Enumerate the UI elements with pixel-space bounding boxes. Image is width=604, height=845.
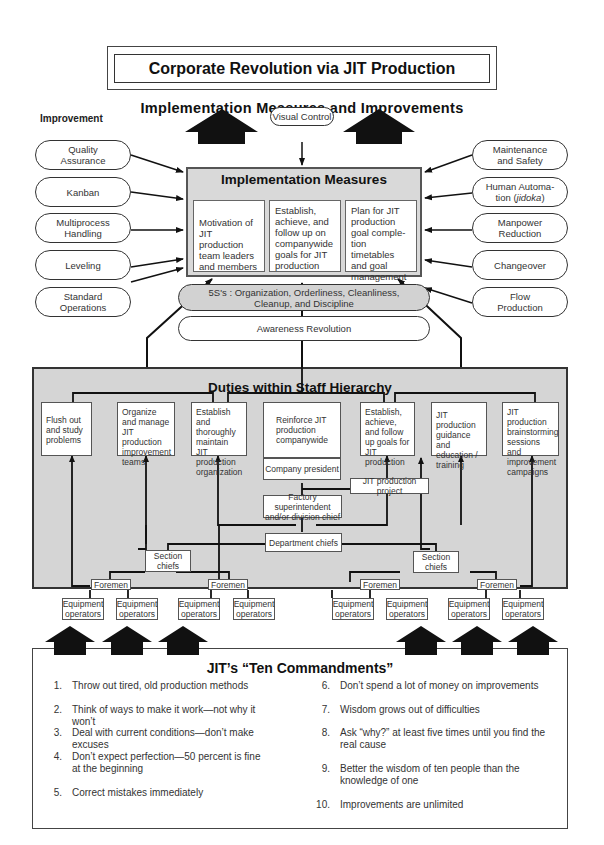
big-up-arrow [396,626,446,655]
commandment-item: 5.Correct mistakes immediately [40,787,280,799]
big-up-arrow [158,626,208,655]
big-up-arrow [102,626,152,655]
commandment-item: 1.Throw out tired, old production method… [40,680,280,692]
commandment-item: 8.Ask “why?” at least five times until y… [308,727,564,751]
big-up-arrow [508,626,558,655]
big-up-arrow [45,626,95,655]
commandment-item: 9.Better the wisdom of ten people than t… [308,763,564,787]
commandment-item: 10.Improvements are unlimited [308,799,564,811]
commandment-item: 6.Don’t spend a lot of money on improvem… [308,680,564,692]
commandments-title: JIT’s “Ten Commandments” [32,660,568,676]
commandment-item: 4.Don’t expect perfection—50 percent is … [40,751,270,775]
commandment-item: 2.Think of ways to make it work—not why … [40,704,280,728]
big-up-arrow [452,626,502,655]
commandment-item: 7.Wisdom grows out of difficulties [308,704,564,716]
commandment-item: 3.Deal with current conditions—don’t mak… [40,727,280,751]
